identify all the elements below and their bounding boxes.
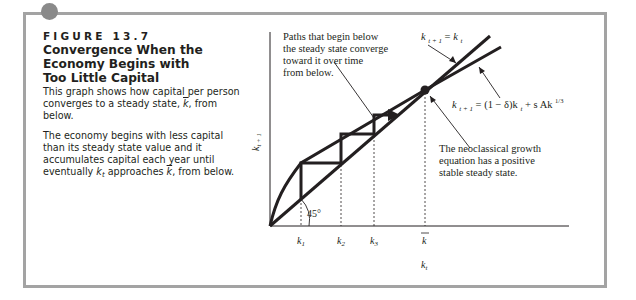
arrowhead-icon — [479, 67, 485, 74]
label-part: k — [453, 31, 458, 42]
svg-text:kt + 1: kt + 1 — [250, 133, 263, 151]
label-part: = (1 − δ)k — [476, 99, 519, 111]
note-line: toward it over time — [283, 55, 364, 66]
note-line: the steady state converge — [283, 43, 388, 54]
axis-label-sub: t + 1 — [255, 133, 263, 147]
x-axis-label: kt — [421, 259, 428, 272]
tick-k2: k2 — [337, 235, 345, 248]
axis-label-sub: t — [425, 264, 428, 272]
steady-state-note: The neoclassical growth equation has a p… — [439, 143, 544, 178]
label-part: t + 1 — [459, 105, 473, 113]
label-part: = — [445, 31, 454, 42]
tick-kbar: k — [422, 235, 427, 246]
steady-state-point — [421, 86, 430, 95]
note-line: from below. — [283, 67, 334, 78]
convergence-diagram: 45° Paths that begin below the steady st… — [0, 0, 636, 300]
curve-label: k t + 1 = (1 − δ)k t + s Ak 1/3 — [452, 97, 563, 113]
label-part: t — [520, 105, 523, 113]
line45-label: k t + 1 = k t — [421, 31, 463, 45]
label-part: k — [421, 31, 426, 42]
label-part: t + 1 — [428, 37, 442, 45]
spacer — [455, 44, 460, 56]
tick-sub: 1 — [301, 240, 305, 248]
steady-state-leader — [430, 96, 470, 148]
paths-note: Paths that begin below the steady state … — [283, 31, 391, 78]
tick-sub: 2 — [341, 240, 345, 248]
angle-label: 45° — [307, 208, 321, 219]
label-part: t — [460, 37, 463, 45]
tick-k3: k3 — [370, 235, 378, 248]
label-part: 1/3 — [555, 97, 563, 104]
label-part: + s Ak — [525, 99, 553, 110]
paths-note-leader — [334, 62, 374, 118]
tick-sub: 3 — [373, 240, 378, 248]
note-line: The neoclassical growth — [439, 143, 542, 154]
tick-k1: k1 — [297, 235, 305, 248]
label-part: k — [452, 99, 457, 110]
y-axis-label: kt + 1 — [250, 133, 263, 151]
note-line: stable steady state. — [439, 167, 517, 178]
note-line: equation has a positive — [439, 155, 535, 166]
note-line: Paths that begin below — [283, 31, 379, 42]
